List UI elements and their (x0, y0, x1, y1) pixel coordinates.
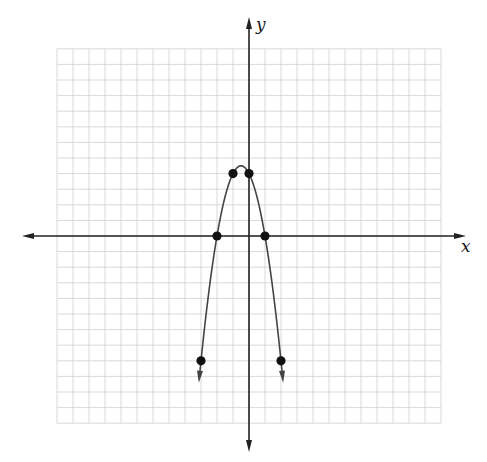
data-point (260, 231, 269, 240)
data-point (244, 169, 253, 178)
y-axis-label: y (256, 16, 266, 33)
parabola-curve (197, 166, 285, 383)
data-point (228, 169, 237, 178)
data-point (196, 356, 205, 365)
x-axis-left-arrow-icon (22, 233, 34, 239)
data-point (212, 231, 221, 240)
coordinate-plane (0, 0, 487, 462)
x-axis-label: x (461, 238, 471, 255)
y-axis-down-arrow-icon (246, 440, 252, 452)
y-axis-up-arrow-icon (246, 17, 252, 29)
data-point (276, 356, 285, 365)
